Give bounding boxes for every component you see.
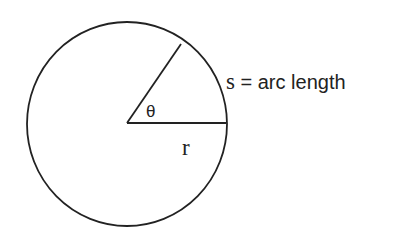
arc-symbol: s [226,69,235,94]
arc-length-diagram: θ r s = arc length [0,0,393,233]
circle [27,22,227,226]
arc-length-label: s = arc length [226,69,346,94]
arc-length-text: = arc length [235,71,346,93]
radius-label: r [182,135,190,160]
theta-label: θ [146,102,155,121]
